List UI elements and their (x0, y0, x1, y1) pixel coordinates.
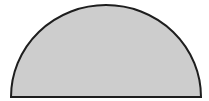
semicircle-shape (11, 5, 201, 97)
semicircle-figure (0, 0, 209, 101)
diagram-canvas (0, 0, 209, 101)
